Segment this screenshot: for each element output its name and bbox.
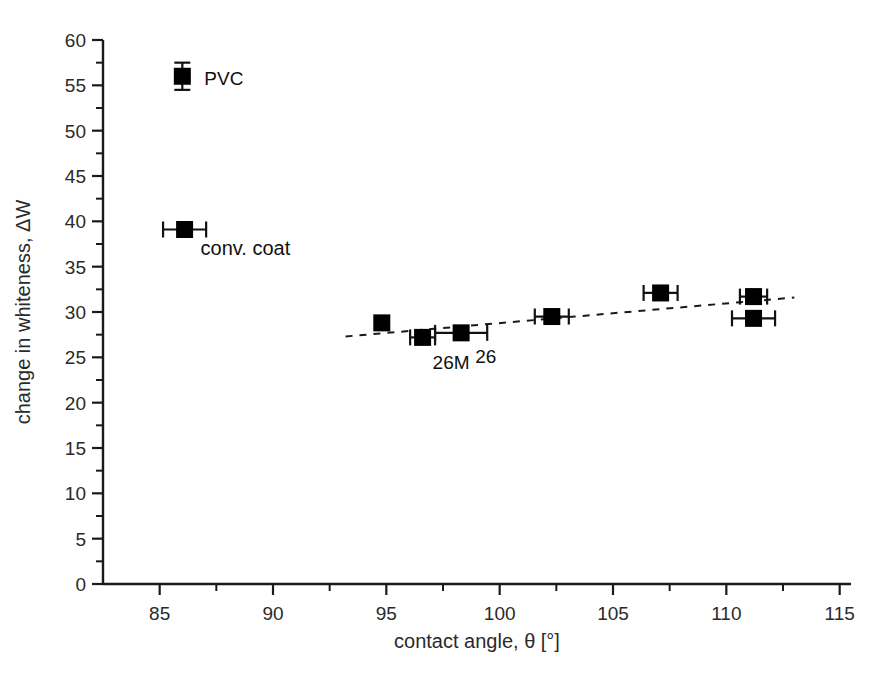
y-tick-label: 55 <box>65 75 86 96</box>
data-point-label: 26 <box>475 346 496 367</box>
y-tick-label: 5 <box>75 529 86 550</box>
x-tick-label: 115 <box>825 603 855 624</box>
data-point-marker <box>543 308 560 325</box>
y-tick-label: 0 <box>75 574 86 595</box>
data-point-marker <box>652 284 669 301</box>
x-tick-label: 95 <box>376 603 397 624</box>
x-tick-label: 90 <box>262 603 283 624</box>
data-point-marker <box>745 310 762 327</box>
data-point-label: 26M <box>433 352 470 373</box>
chart-canvas: 051015202530354045505560 859095100105110… <box>0 0 884 679</box>
y-tick-label: 20 <box>65 393 86 414</box>
y-tick-label: 25 <box>65 347 86 368</box>
scatter-plot-figure: 051015202530354045505560 859095100105110… <box>0 0 884 679</box>
x-tick-label: 105 <box>597 603 629 624</box>
y-tick-label: 40 <box>65 211 86 232</box>
data-point-marker <box>176 221 193 238</box>
data-point-marker <box>373 314 390 331</box>
x-tick-label: 85 <box>149 603 170 624</box>
x-tick-label: 110 <box>711 603 741 624</box>
x-tick-label: 100 <box>484 603 516 624</box>
y-tick-label: 15 <box>65 438 86 459</box>
y-tick-label: 60 <box>65 30 86 51</box>
y-axis-title: change in whiteness, ΔW <box>12 200 34 425</box>
data-point-label: PVC <box>204 68 243 89</box>
x-axis-title: contact angle, θ [°] <box>394 630 560 652</box>
y-tick-label: 35 <box>65 257 86 278</box>
y-tick-label: 30 <box>65 302 86 323</box>
y-tick-label: 10 <box>65 483 86 504</box>
y-tick-label: 50 <box>65 121 86 142</box>
data-point-label: conv. coat <box>201 237 291 259</box>
chart-background <box>0 0 884 679</box>
data-point-marker <box>453 324 470 341</box>
data-point-marker <box>745 288 762 305</box>
data-point-marker <box>414 329 431 346</box>
data-point-marker <box>174 68 191 85</box>
y-tick-label: 45 <box>65 166 86 187</box>
